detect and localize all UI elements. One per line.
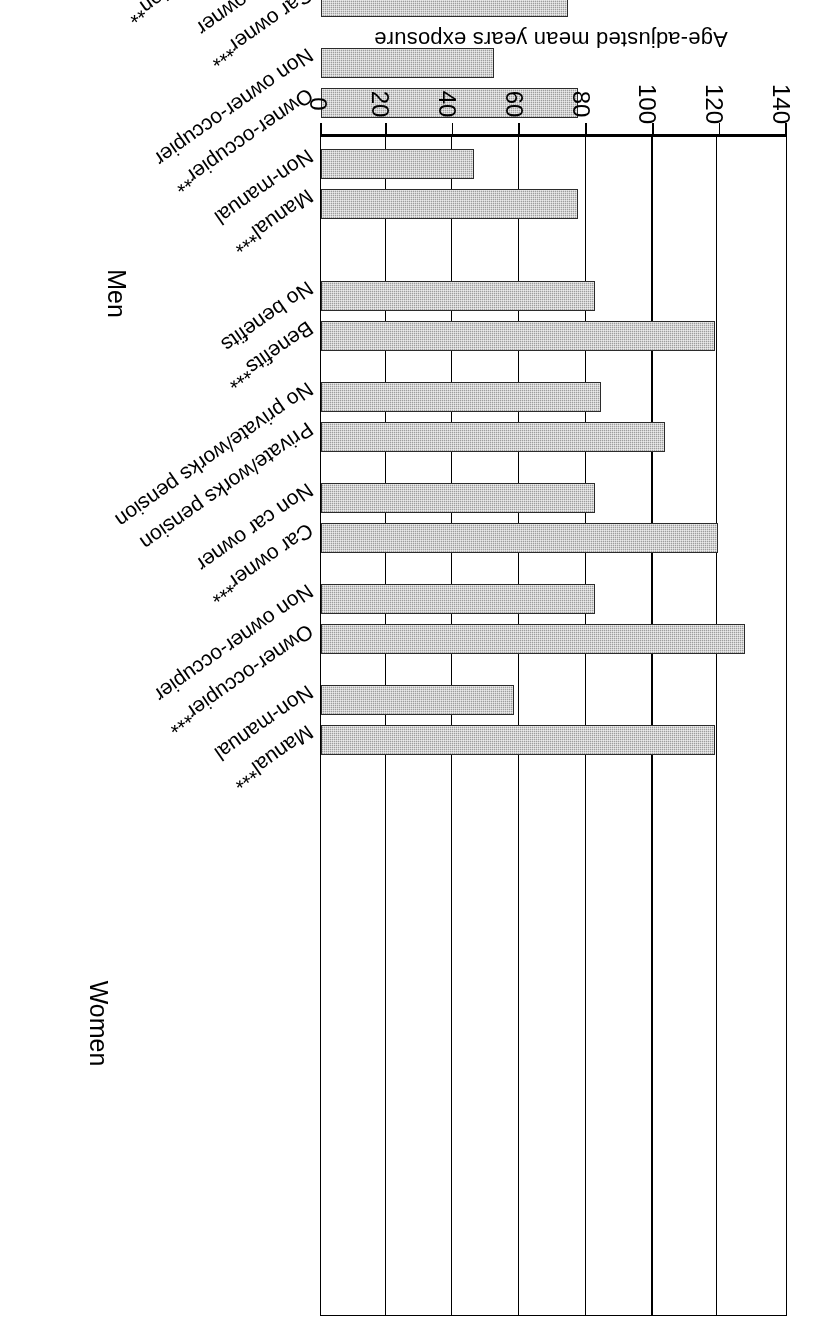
group-label-men: Men	[102, 269, 131, 318]
group-label-women: Women	[84, 981, 113, 1067]
chart-canvas: 140 120 100 80 60 40 20 0 Age-adjusted m…	[0, 0, 831, 1338]
category-label-layer: Manual***Non-manualOwner-occupier***Non …	[0, 0, 831, 1338]
